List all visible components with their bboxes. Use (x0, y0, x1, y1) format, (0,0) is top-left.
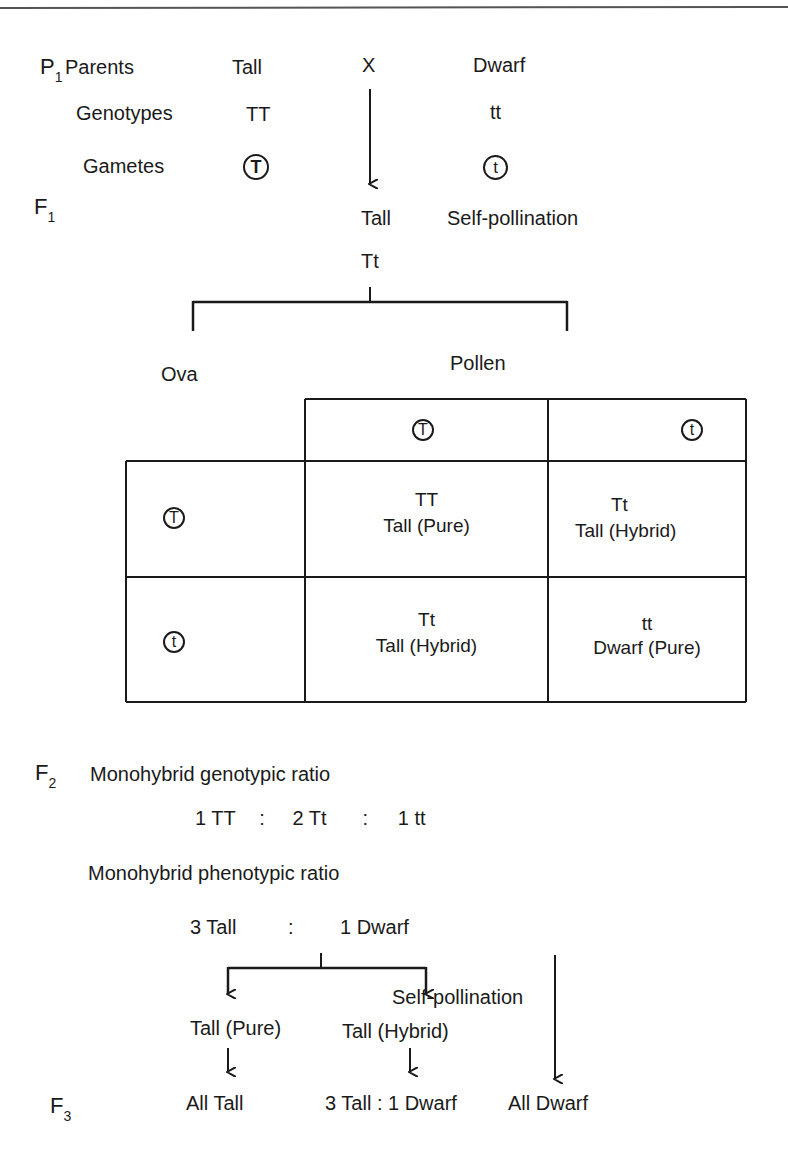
f2-subscript: 2 (48, 775, 56, 791)
phenotypic-ratio-title: Monohybrid phenotypic ratio (88, 863, 339, 883)
ova-gamete-t: t (163, 631, 185, 653)
pollen-gamete-t: t (681, 419, 703, 441)
f3-all-tall: All Tall (186, 1093, 243, 1113)
ratio-colon: : (350, 808, 380, 828)
ova-label: Ova (161, 364, 198, 384)
pollen-gamete-T: T (412, 419, 434, 441)
genotypic-ratio-title: Monohybrid genotypic ratio (90, 764, 330, 784)
cell-phenotype: Tall (Hybrid) (305, 633, 548, 659)
punnett-cell-Tt-top: Tt Tall (Hybrid) (575, 492, 747, 543)
f3-3-tall-1-dwarf: 3 Tall : 1 Dwarf (325, 1093, 457, 1113)
f1-split-bracket (193, 287, 567, 331)
p1-subscript: 1 (55, 69, 63, 85)
tall-parent: Tall (232, 57, 262, 77)
ova-gamete-T-allele: T (169, 510, 179, 526)
tall-gamete-allele: T (251, 158, 262, 176)
ratio-colon: : (247, 808, 277, 828)
tall-parent-genotype: TT (246, 104, 270, 124)
phenotype-1-dwarf: 1 Dwarf (340, 917, 409, 937)
cell-phenotype: Dwarf (Pure) (548, 636, 746, 660)
p1-generation-label: P1 (40, 56, 62, 78)
dwarf-parent-genotype: tt (490, 102, 501, 122)
f2-self-pollination: Self-pollination (392, 987, 523, 1007)
f1-genotype: Tt (361, 251, 379, 271)
dwarf-gamete-allele: t (493, 159, 498, 176)
p1-letter: P (40, 54, 55, 79)
genotypes-label: Genotypes (76, 103, 173, 123)
cross-symbol: X (362, 55, 375, 75)
pollen-gamete-T-allele: T (418, 422, 428, 438)
f2-letter: F (35, 760, 48, 785)
ova-gamete-T: T (163, 507, 185, 529)
tall-hybrid-label: Tall (Hybrid) (342, 1021, 449, 1041)
f1-phenotype: Tall (361, 208, 391, 228)
cell-genotype: Tt (575, 492, 747, 518)
phenotype-colon: : (288, 917, 294, 937)
tall-gamete-circle: T (243, 154, 269, 180)
ratio-Tt: 2 Tt (293, 807, 327, 829)
f2-generation-label: F2 (35, 762, 56, 784)
parents-label: Parents (65, 57, 134, 77)
cell-genotype: TT (305, 487, 548, 513)
ratio-tt: 1 tt (398, 807, 426, 829)
pollen-label: Pollen (450, 353, 506, 373)
top-border (0, 7, 788, 8)
punnett-cell-tt: tt Dwarf (Pure) (548, 612, 746, 660)
dwarf-gamete-circle: t (483, 155, 508, 180)
f3-subscript: 3 (63, 1108, 71, 1124)
f3-letter: F (50, 1093, 63, 1118)
f3-all-dwarf: All Dwarf (508, 1093, 588, 1113)
genotypic-ratio: 1 TT : 2 Tt : 1 tt (195, 808, 426, 828)
ova-gamete-t-allele: t (172, 634, 176, 650)
pollen-gamete-t-allele: t (690, 422, 694, 438)
f1-generation-label: F1 (34, 196, 55, 218)
cell-genotype: tt (548, 612, 746, 636)
phenotype-3-tall: 3 Tall (190, 917, 236, 937)
dwarf-parent: Dwarf (473, 55, 525, 75)
tall-pure-label: Tall (Pure) (190, 1018, 281, 1038)
punnett-cell-Tt-bottom: Tt Tall (Hybrid) (305, 607, 548, 658)
cell-phenotype: Tall (Pure) (305, 513, 548, 539)
f1-self-pollination: Self-pollination (447, 208, 578, 228)
f1-subscript: 1 (47, 209, 55, 225)
ratio-TT: 1 TT (195, 807, 235, 829)
punnett-cell-TT: TT Tall (Pure) (305, 487, 548, 538)
f1-letter: F (34, 194, 47, 219)
cell-phenotype: Tall (Hybrid) (575, 518, 747, 544)
f3-generation-label: F3 (50, 1095, 71, 1117)
gametes-label: Gametes (83, 156, 164, 176)
cell-genotype: Tt (305, 607, 548, 633)
